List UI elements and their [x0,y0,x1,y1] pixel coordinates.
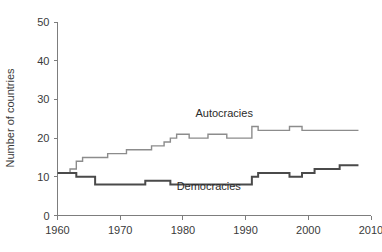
x-tick-label: 1980 [171,224,195,236]
x-tick-label: 1970 [108,224,132,236]
line-chart: 01020304050 196019701980199020002010 Aut… [0,0,382,252]
y-tick-label: 20 [37,132,49,144]
chart-figure: 01020304050 196019701980199020002010 Aut… [0,0,382,252]
series-annotations: AutocraciesDemocracies [177,107,254,192]
series-line-autocracies [58,126,359,172]
y-tick-label: 0 [43,210,49,222]
data-series-group [58,126,359,184]
x-tick-label: 2000 [296,224,320,236]
x-tick-label: 2010 [359,224,382,236]
y-tick-label: 40 [37,55,49,67]
y-tick-label: 50 [37,16,49,28]
y-axis-ticks [54,22,58,216]
x-tick-labels: 196019701980199020002010 [45,224,382,236]
y-tick-label: 30 [37,93,49,105]
x-tick-label: 1960 [45,224,69,236]
x-tick-label: 1990 [233,224,257,236]
x-axis-ticks [58,216,372,220]
y-tick-labels: 01020304050 [37,16,49,222]
y-axis-title: Number of countries [4,68,16,168]
y-tick-label: 10 [37,171,49,183]
annotation-autocracies: Autocracies [195,107,253,119]
annotation-democracies: Democracies [177,180,242,192]
